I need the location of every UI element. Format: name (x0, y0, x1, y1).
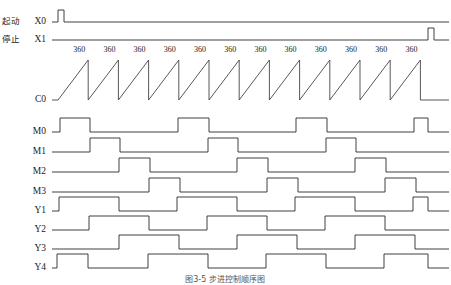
signal-label-x1: X1 (34, 34, 46, 44)
waveform-x0 (52, 10, 449, 22)
counter-preset-label: 360 (164, 45, 176, 54)
counter-preset-label: 360 (285, 45, 297, 54)
chinese-signal-labels: 起动停止 (2, 16, 20, 44)
waveform-x1 (52, 28, 449, 40)
counter-preset-labels: 360360360360360360360360360360360360 (73, 45, 417, 54)
counter-preset-label: 360 (345, 45, 357, 54)
signal-label-y2: Y2 (34, 224, 46, 234)
waveform-y4 (52, 254, 449, 268)
signal-cn-label-x1: 停止 (2, 34, 20, 44)
timing-diagram-canvas: 起动停止 X0X1C0M0M1M2M3Y1Y2Y3Y4 360360360360… (0, 0, 451, 285)
counter-preset-label: 360 (224, 45, 236, 54)
counter-preset-label: 360 (73, 45, 85, 54)
signal-label-m2: M2 (33, 166, 46, 176)
waveform-y3 (52, 235, 449, 249)
signal-name-labels: X0X1C0M0M1M2M3Y1Y2Y3Y4 (33, 16, 46, 272)
counter-preset-label: 360 (405, 45, 417, 54)
signal-label-m3: M3 (33, 186, 46, 196)
counter-preset-label: 360 (375, 45, 387, 54)
signal-cn-label-x0: 起动 (2, 16, 20, 26)
waveform-m0 (52, 118, 449, 132)
figure-caption: 图3-5 步进控制顺序图 (185, 274, 265, 284)
signal-label-m1: M1 (33, 146, 46, 156)
counter-preset-label: 360 (254, 45, 266, 54)
waveform-c0 (52, 60, 449, 100)
signal-label-x0: X0 (34, 16, 46, 26)
counter-preset-label: 360 (103, 45, 115, 54)
counter-preset-label: 360 (134, 45, 146, 54)
signal-label-m0: M0 (33, 126, 46, 136)
waveform-m3 (52, 178, 449, 192)
timing-diagram: 起动停止 X0X1C0M0M1M2M3Y1Y2Y3Y4 360360360360… (0, 0, 451, 285)
signal-label-y4: Y4 (34, 262, 46, 272)
waveform-m1 (52, 138, 449, 152)
waveform-y1 (52, 197, 449, 211)
signal-label-c0: C0 (35, 94, 46, 104)
signal-label-y3: Y3 (34, 243, 46, 253)
counter-preset-label: 360 (315, 45, 327, 54)
counter-preset-label: 360 (194, 45, 206, 54)
signal-label-y1: Y1 (34, 205, 46, 215)
waveform-m2 (52, 158, 449, 172)
waveform-y2 (52, 216, 449, 230)
